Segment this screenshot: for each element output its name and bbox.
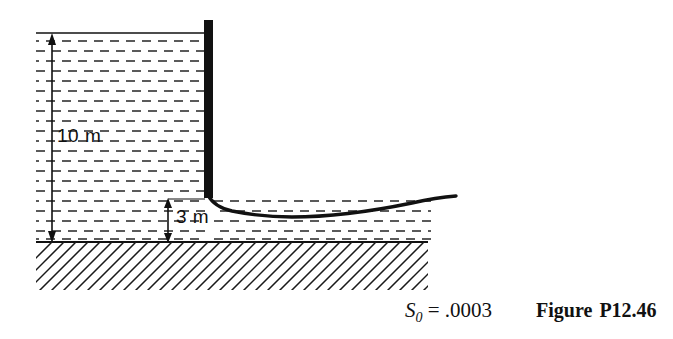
slope-equals: = <box>428 298 440 322</box>
figure-p12-46: 10 m 3 m S0 = .0003 FigureP12.46 <box>0 0 673 339</box>
figure-caption-prefix: Figure <box>536 299 592 321</box>
water-surface-profile <box>208 195 456 217</box>
figure-caption-number: P12.46 <box>599 299 656 321</box>
slope-subscript: 0 <box>416 310 423 325</box>
sluice-gate <box>204 20 213 198</box>
bed-slope-label: S0 = .0003 <box>405 298 492 323</box>
sluice-gate-diagram <box>0 0 673 339</box>
caption-row: S0 = .0003 FigureP12.46 <box>405 298 673 326</box>
channel-bed <box>0 242 472 300</box>
figure-caption: FigureP12.46 <box>536 299 657 322</box>
slope-value: .0003 <box>445 298 492 322</box>
slope-symbol: S <box>405 298 416 322</box>
dimension-label-10m: 10 m <box>57 126 101 145</box>
dimension-label-3m: 3 m <box>176 207 209 226</box>
